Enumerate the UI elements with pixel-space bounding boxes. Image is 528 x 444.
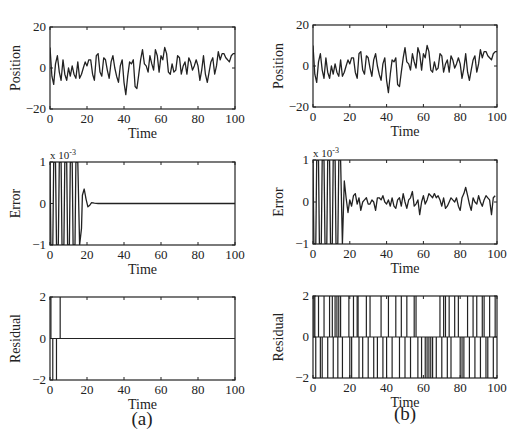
x-tick-label: 40 bbox=[380, 246, 393, 261]
y-axis-label: Residual bbox=[271, 312, 286, 361]
y-tick-label: 20 bbox=[33, 19, 46, 34]
axes-frame bbox=[50, 27, 235, 109]
y-axis-label: Error bbox=[271, 187, 286, 217]
y-tick-label: −20 bbox=[289, 99, 309, 114]
x-tick-label: 100 bbox=[487, 380, 507, 395]
x-tick-label: 0 bbox=[310, 109, 317, 124]
y-tick-label: 1 bbox=[40, 154, 47, 169]
y-tick-label: 0 bbox=[40, 196, 47, 211]
data-series bbox=[313, 160, 495, 244]
data-series bbox=[50, 48, 235, 95]
x-tick-label: 60 bbox=[417, 109, 430, 124]
plot-a-error: 020406080100−101TimeErrorx 10-3 bbox=[8, 148, 245, 277]
x-tick-label: 60 bbox=[155, 111, 168, 126]
x-tick-label: 60 bbox=[417, 380, 430, 395]
x-tick-label: 80 bbox=[454, 246, 467, 261]
x-axis-label: Time bbox=[128, 397, 157, 412]
y-tick-label: 0 bbox=[303, 194, 310, 209]
y-axis-label: Error bbox=[8, 188, 23, 218]
x-tick-label: 20 bbox=[81, 111, 94, 126]
x-tick-label: 80 bbox=[454, 109, 467, 124]
plot-b-position: 020406080100−20020TimePosition bbox=[271, 17, 507, 139]
y-tick-label: −1 bbox=[32, 237, 46, 252]
y-tick-label: 20 bbox=[296, 17, 309, 32]
y-axis-label: Residual bbox=[8, 314, 23, 363]
data-series bbox=[313, 296, 497, 378]
x-tick-label: 60 bbox=[155, 382, 168, 397]
axes-frame bbox=[313, 25, 497, 107]
y-tick-label: 0 bbox=[303, 58, 310, 73]
x-tick-label: 100 bbox=[225, 111, 245, 126]
data-series bbox=[313, 46, 497, 93]
x-tick-label: 0 bbox=[310, 380, 317, 395]
y-scale-exponent: x 10-3 bbox=[313, 146, 339, 159]
y-tick-label: −2 bbox=[32, 372, 46, 387]
x-tick-label: 0 bbox=[310, 246, 317, 261]
plot-a-residual: 020406080100−202TimeResidual bbox=[8, 289, 245, 412]
x-tick-label: 0 bbox=[47, 247, 54, 262]
x-tick-label: 20 bbox=[343, 380, 356, 395]
x-tick-label: 60 bbox=[417, 246, 430, 261]
y-tick-label: 2 bbox=[40, 289, 47, 304]
y-axis-label: Position bbox=[271, 43, 286, 89]
y-tick-label: 1 bbox=[303, 152, 310, 167]
y-tick-label: −20 bbox=[26, 101, 46, 116]
x-tick-label: 100 bbox=[225, 247, 245, 262]
x-tick-label: 20 bbox=[81, 382, 94, 397]
x-axis-label: Time bbox=[390, 261, 419, 276]
x-axis-label: Time bbox=[128, 126, 157, 141]
x-tick-label: 100 bbox=[487, 109, 507, 124]
y-scale-exponent: x 10-3 bbox=[50, 148, 76, 161]
plot-b-error: 020406080100−101TimeErrorx 10-3 bbox=[271, 146, 507, 276]
x-tick-label: 20 bbox=[343, 109, 356, 124]
x-tick-label: 40 bbox=[118, 111, 131, 126]
y-tick-label: 0 bbox=[40, 60, 47, 75]
y-tick-label: 0 bbox=[303, 329, 310, 344]
x-tick-label: 100 bbox=[225, 382, 245, 397]
x-tick-label: 0 bbox=[47, 111, 54, 126]
x-axis-label: Time bbox=[390, 395, 419, 410]
x-tick-label: 40 bbox=[118, 382, 131, 397]
x-tick-label: 0 bbox=[47, 382, 54, 397]
figure: (a) (b) 020406080100−20020TimePosition02… bbox=[0, 0, 528, 444]
y-axis-label: Position bbox=[8, 45, 23, 91]
x-tick-label: 60 bbox=[155, 247, 168, 262]
x-tick-label: 80 bbox=[192, 111, 205, 126]
x-tick-label: 40 bbox=[380, 380, 393, 395]
x-tick-label: 20 bbox=[343, 246, 356, 261]
y-tick-label: 0 bbox=[40, 331, 47, 346]
x-tick-label: 80 bbox=[192, 247, 205, 262]
y-tick-label: 2 bbox=[303, 288, 310, 303]
x-tick-label: 20 bbox=[81, 247, 94, 262]
x-axis-label: Time bbox=[390, 124, 419, 139]
x-tick-label: 40 bbox=[380, 109, 393, 124]
y-tick-label: −2 bbox=[295, 370, 309, 385]
data-series bbox=[50, 162, 235, 245]
plot-a-position: 020406080100−20020TimePosition bbox=[8, 19, 245, 141]
x-tick-label: 40 bbox=[118, 247, 131, 262]
plot-b-residual: 020406080100−202TimeResidual bbox=[271, 288, 507, 410]
y-tick-label: −1 bbox=[295, 236, 309, 251]
data-series bbox=[50, 297, 235, 380]
x-tick-label: 80 bbox=[192, 382, 205, 397]
x-tick-label: 100 bbox=[487, 246, 507, 261]
x-tick-label: 80 bbox=[454, 380, 467, 395]
x-axis-label: Time bbox=[128, 262, 157, 277]
